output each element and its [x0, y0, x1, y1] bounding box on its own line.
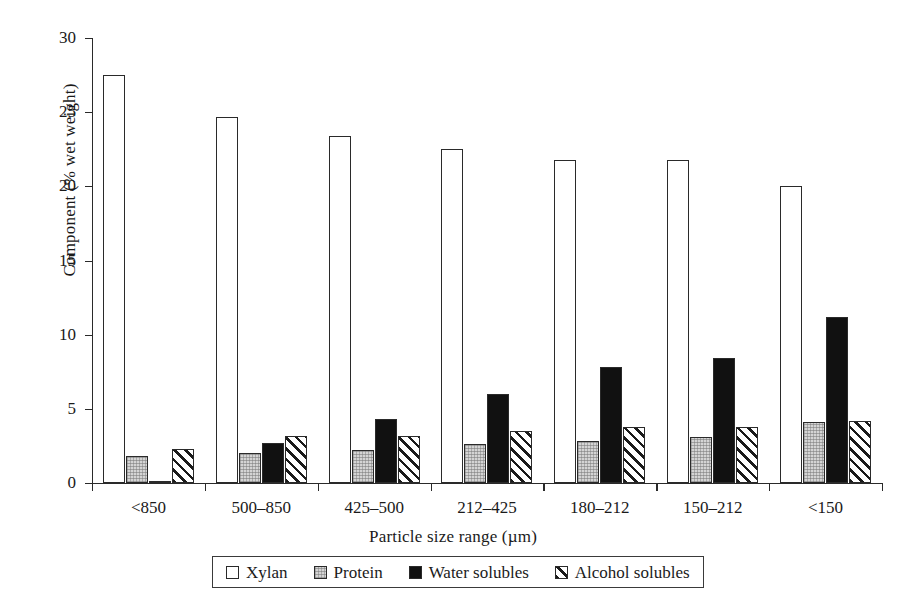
x-axis-tick-mark: [205, 483, 206, 491]
x-axis-tick-label: 180–212: [543, 499, 656, 516]
bar-protein: [239, 453, 261, 483]
bar-xylan: [103, 75, 125, 483]
legend-item: Alcohol solubles: [555, 564, 690, 581]
legend-item-label: Alcohol solubles: [575, 564, 690, 581]
x-axis-tick-label: 425–500: [318, 499, 431, 516]
bar-water: [262, 443, 284, 483]
bar-group: [318, 38, 431, 483]
y-axis-tick-mark: [85, 335, 92, 336]
y-axis-tick-label: 15: [34, 252, 76, 269]
x-axis-tick-mark: [882, 483, 883, 491]
bar-alcohol: [172, 449, 194, 483]
bar-group: [769, 38, 882, 483]
hatched-square-swatch: [555, 566, 568, 579]
open-square-swatch: [226, 566, 239, 579]
bar-alcohol: [736, 427, 758, 483]
y-axis-tick-label: 25: [34, 103, 76, 120]
bar-group: [205, 38, 318, 483]
bar-protein: [690, 437, 712, 483]
x-axis-title: Particle size range (µm): [0, 527, 906, 547]
plot-area: [92, 38, 882, 483]
y-axis-tick-mark: [85, 38, 92, 39]
bar-water: [713, 358, 735, 483]
bar-water: [826, 317, 848, 483]
legend-item-label: Protein: [334, 564, 383, 581]
bar-xylan: [329, 136, 351, 483]
bar-xylan: [780, 186, 802, 483]
bar-water: [487, 394, 509, 483]
bar-water: [375, 419, 397, 483]
y-axis-tick-label: 30: [34, 29, 76, 46]
bar-xylan: [216, 117, 238, 483]
x-axis-tick-label: 150–212: [656, 499, 769, 516]
x-axis-tick-mark: [656, 483, 657, 491]
bar-xylan: [667, 160, 689, 483]
bar-xylan: [554, 160, 576, 483]
bar-water: [600, 367, 622, 483]
x-axis-tick-label: <850: [92, 499, 205, 516]
x-axis-tick-mark: [92, 483, 93, 491]
x-axis-tick-label: 500–850: [205, 499, 318, 516]
bar-protein: [577, 441, 599, 483]
x-axis-tick-label: <150: [769, 499, 882, 516]
x-axis-line: [92, 483, 882, 484]
legend-item-label: Water solubles: [429, 564, 529, 581]
bar-alcohol: [849, 421, 871, 483]
bar-protein: [803, 422, 825, 483]
bar-chart-figure: Component (% wet weight) 051015202530 <8…: [0, 0, 906, 614]
x-axis-tick-mark: [318, 483, 319, 491]
bar-alcohol: [623, 427, 645, 483]
y-axis-tick-mark: [85, 483, 92, 484]
bar-protein: [464, 444, 486, 483]
x-axis-tick-label: 212–425: [431, 499, 544, 516]
bar-group: [656, 38, 769, 483]
x-axis-tick-mark: [431, 483, 432, 491]
bar-water: [149, 481, 171, 483]
x-axis-tick-mark: [543, 483, 544, 491]
legend-item: Xylan: [226, 564, 288, 581]
y-axis-tick-label: 20: [34, 177, 76, 194]
y-axis-tick-mark: [85, 186, 92, 187]
bar-group: [543, 38, 656, 483]
bar-group: [431, 38, 544, 483]
y-axis-tick-mark: [85, 112, 92, 113]
x-axis-tick-mark: [769, 483, 770, 491]
bar-group: [92, 38, 205, 483]
bar-protein: [352, 450, 374, 483]
legend-item: Protein: [314, 564, 383, 581]
bar-alcohol: [285, 436, 307, 483]
bar-protein: [126, 456, 148, 483]
y-axis-tick-mark: [85, 261, 92, 262]
y-axis-tick-label: 10: [34, 326, 76, 343]
filled-square-swatch: [409, 566, 422, 579]
y-axis-tick-label: 0: [34, 474, 76, 491]
legend-item: Water solubles: [409, 564, 529, 581]
bar-alcohol: [510, 431, 532, 483]
chart-legend: XylanProteinWater solublesAlcohol solubl…: [212, 556, 704, 588]
legend-item-label: Xylan: [246, 564, 288, 581]
bar-alcohol: [398, 436, 420, 483]
y-axis-tick-label: 5: [34, 400, 76, 417]
y-axis-tick-mark: [85, 409, 92, 410]
bar-xylan: [441, 149, 463, 483]
stippled-square-swatch: [314, 566, 327, 579]
